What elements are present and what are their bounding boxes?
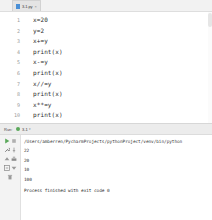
arrow-down-icon[interactable] [11, 165, 17, 171]
line-number: 3 [0, 36, 26, 47]
editor-scrollbar-thumb[interactable] [208, 13, 212, 27]
run-panel-body: /Users/amberren/PycharmProjects/pythonPr… [0, 135, 212, 220]
code-line[interactable]: print(x) [33, 89, 212, 100]
toolbar-row [0, 155, 20, 163]
line-number: 5 [0, 57, 26, 68]
close-icon[interactable]: × [35, 4, 37, 9]
console-output-value: 100 [24, 175, 212, 184]
code-content[interactable]: x=20 y=2 x+=y print(x) x-=y print(x) x//… [26, 12, 212, 123]
chevron-down-icon[interactable]: ▾ [29, 127, 31, 131]
wrap-icon[interactable] [4, 165, 10, 171]
code-line[interactable]: x=20 [33, 15, 212, 26]
editor-tab-3-1-py[interactable]: 3-1.py × [12, 0, 41, 11]
run-configuration-selector[interactable]: 3-1 ▾ [16, 127, 31, 132]
python-file-icon [16, 4, 20, 9]
console-output-value: 10 [24, 165, 212, 174]
line-number: 9 [0, 100, 26, 111]
code-line[interactable]: y=2 [33, 26, 212, 37]
code-line[interactable]: x-=y [33, 57, 212, 68]
arrow-up-icon[interactable] [4, 156, 10, 162]
run-console-output[interactable]: /Users/amberren/PycharmProjects/pythonPr… [21, 135, 212, 220]
pin-icon[interactable] [11, 147, 17, 153]
trash-icon[interactable] [7, 174, 13, 180]
console-output-value: 20 [24, 156, 212, 165]
run-tool-window: Run: 3-1 ▾ [0, 123, 212, 220]
run-panel-toolbar [0, 135, 21, 220]
stop-icon[interactable] [11, 138, 17, 144]
toolbar-row [0, 173, 20, 181]
line-number: 10 [0, 110, 26, 121]
code-line[interactable]: print(x) [33, 68, 212, 79]
line-number: 7 [0, 79, 26, 90]
line-number: 8 [0, 89, 26, 100]
run-panel-title: Run: [4, 127, 12, 132]
editor-scrollbar-track[interactable] [208, 12, 212, 123]
code-line[interactable]: print(x) [33, 47, 212, 58]
code-line[interactable]: x+=y [33, 36, 212, 47]
play-icon [16, 127, 20, 131]
line-number: 4 [0, 47, 26, 58]
console-output-value: 22 [24, 146, 212, 155]
printer-icon[interactable] [11, 156, 17, 162]
pycharm-ide-window: 3-1.py × 1 2 3 4 5 6 7 8 9 10 x=20 y=2 x… [0, 0, 212, 220]
run-configuration-label: 3-1 [22, 127, 28, 132]
line-number: 2 [0, 26, 26, 37]
line-number-gutter: 1 2 3 4 5 6 7 8 9 10 [0, 12, 26, 123]
toolbar-row [0, 146, 20, 154]
code-line[interactable]: print(x) [33, 110, 212, 121]
wrench-icon[interactable] [4, 147, 10, 153]
editor-tab-bar: 3-1.py × [0, 0, 212, 12]
code-line[interactable]: x//=y [33, 79, 212, 90]
console-interpreter-path: /Users/amberren/PycharmProjects/pythonPr… [24, 137, 212, 146]
line-number: 1 [0, 15, 26, 26]
console-exit-status: Process finished with exit code 0 [24, 186, 212, 195]
code-editor[interactable]: 1 2 3 4 5 6 7 8 9 10 x=20 y=2 x+=y print… [0, 12, 212, 123]
play-icon[interactable] [4, 138, 10, 144]
run-panel-header: Run: 3-1 ▾ [0, 124, 212, 135]
line-number: 6 [0, 68, 26, 79]
code-line[interactable]: x**=y [33, 100, 212, 111]
toolbar-row [0, 164, 20, 172]
toolbar-row [0, 137, 20, 145]
editor-tab-label: 3-1.py [22, 4, 33, 9]
